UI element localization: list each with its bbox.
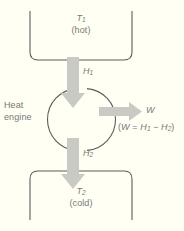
cold-reservoir-symbol: T2 [76,186,85,198]
work-equation: (W = H1 − H2) [118,122,174,134]
heat-in-label: H1 [83,66,93,78]
engine-circle-right-arc [87,89,116,151]
work-label: W [146,105,155,116]
engine-label-line1: Heat [4,100,32,112]
heat-in-arrow [61,57,85,108]
hot-reservoir-state: (hot) [71,25,90,36]
work-arrow [99,102,142,121]
heat-out-label: H2 [83,148,93,160]
engine-label-line2: engine [4,112,32,124]
heat-out-arrow [61,138,85,189]
hot-reservoir-symbol: T1 [76,13,85,25]
cold-reservoir-state: (cold) [69,198,92,209]
engine-label: Heat engine [4,100,32,123]
heat-engine-diagram: T1 (hot) T2 (cold) H1 H2 W (W = H1 − H2)… [0,0,184,231]
